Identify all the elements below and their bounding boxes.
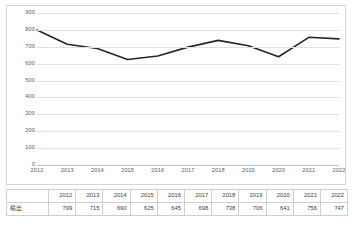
x-tick-label-2022: 2022 [333, 168, 346, 174]
table-cell-2017: 698 [184, 203, 211, 216]
table-col-header-2014: 2014 [103, 190, 130, 203]
gridline-200 [37, 131, 339, 132]
gridline-700 [37, 47, 339, 48]
x-tick-label-2013: 2013 [61, 168, 74, 174]
y-tick-label-200: 200 [9, 128, 35, 134]
series-line-exports [37, 13, 339, 165]
x-tick-label-2020: 2020 [272, 168, 285, 174]
table-cell-2014: 690 [103, 203, 130, 216]
x-tick-label-2021: 2021 [302, 168, 315, 174]
y-tick-label-300: 300 [9, 112, 35, 118]
table-cell-2021: 756 [293, 203, 320, 216]
x-tick-label-2018: 2018 [212, 168, 225, 174]
gridline-900 [37, 13, 339, 14]
table-cell-2022: 747 [320, 203, 347, 216]
y-tick-label-400: 400 [9, 95, 35, 101]
data-table: 2012201320142015201620172018201920202021… [6, 189, 348, 216]
table-body: 輸出799715690625645698738706641756747 [7, 203, 348, 216]
table-col-header-2016: 2016 [157, 190, 184, 203]
table-col-header-2020: 2020 [266, 190, 293, 203]
table-row: 輸出799715690625645698738706641756747 [7, 203, 348, 216]
table-col-header-2013: 2013 [76, 190, 103, 203]
gridline-0 [37, 165, 339, 166]
x-tick-label-2017: 2017 [182, 168, 195, 174]
table-col-header-2022: 2022 [320, 190, 347, 203]
y-axis-tick-labels: 0100200300400500600700800900 [9, 13, 35, 165]
table-row-label: 輸出 [7, 203, 49, 216]
x-tick-label-2014: 2014 [91, 168, 104, 174]
table-col-header-2018: 2018 [212, 190, 239, 203]
table-cell-2015: 625 [130, 203, 157, 216]
gridline-800 [37, 30, 339, 31]
table-col-header-2017: 2017 [184, 190, 211, 203]
y-tick-label-500: 500 [9, 78, 35, 84]
y-tick-label-700: 700 [9, 44, 35, 50]
table-col-header-2015: 2015 [130, 190, 157, 203]
y-tick-label-800: 800 [9, 27, 35, 33]
y-tick-label-600: 600 [9, 61, 35, 67]
x-tick-label-2016: 2016 [151, 168, 164, 174]
plot-area [37, 13, 339, 165]
table-cell-2012: 799 [49, 203, 76, 216]
table-cell-2013: 715 [76, 203, 103, 216]
y-tick-label-900: 900 [9, 10, 35, 16]
y-tick-label-100: 100 [9, 145, 35, 151]
table-corner-cell [7, 190, 49, 203]
table-header-row: 2012201320142015201620172018201920202021… [7, 190, 348, 203]
chart-screenshot: 0100200300400500600700800900 20122013201… [0, 0, 352, 225]
plot-wrapper: 0100200300400500600700800900 20122013201… [7, 6, 345, 184]
series-polyline-0 [37, 30, 339, 59]
table-cell-2020: 641 [266, 203, 293, 216]
gridline-400 [37, 97, 339, 98]
table-col-header-2019: 2019 [239, 190, 266, 203]
gridline-100 [37, 148, 339, 149]
x-tick-label-2015: 2015 [121, 168, 134, 174]
x-tick-label-2019: 2019 [242, 168, 255, 174]
x-tick-label-2012: 2012 [31, 168, 44, 174]
gridline-500 [37, 81, 339, 82]
x-axis-tick-labels: 2012201320142015201620172018201920202021… [37, 168, 339, 180]
table-col-header-2012: 2012 [49, 190, 76, 203]
table-col-header-2021: 2021 [293, 190, 320, 203]
gridline-300 [37, 114, 339, 115]
line-chart-panel: 0100200300400500600700800900 20122013201… [6, 5, 346, 185]
gridline-600 [37, 64, 339, 65]
table-cell-2016: 645 [157, 203, 184, 216]
table-cell-2019: 706 [239, 203, 266, 216]
table-cell-2018: 738 [212, 203, 239, 216]
